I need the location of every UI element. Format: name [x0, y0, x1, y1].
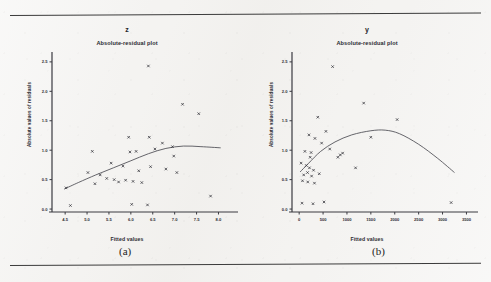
svg-text:500: 500 — [320, 217, 328, 222]
svg-text:6.5: 6.5 — [150, 217, 156, 222]
svg-text:1000: 1000 — [342, 217, 352, 222]
svg-text:1500: 1500 — [366, 217, 376, 222]
svg-text:2.0: 2.0 — [42, 89, 48, 94]
svg-text:0.0: 0.0 — [42, 207, 48, 212]
svg-text:8.0: 8.0 — [216, 217, 222, 222]
svg-text:1.5: 1.5 — [42, 118, 48, 123]
svg-text:3000: 3000 — [438, 217, 448, 222]
panel-b-y-axis-label: Absolute values of residuals — [269, 70, 274, 160]
svg-text:1.0: 1.0 — [42, 148, 48, 153]
figure-page: z Absolute-residual plot 0.00.51.01.52.0… — [0, 0, 491, 282]
svg-text:2.5: 2.5 — [42, 59, 48, 64]
bottom-rule — [10, 263, 481, 266]
svg-text:7.5: 7.5 — [194, 217, 200, 222]
panel-b: y Absolute-residual plot 0.00.51.01.52.0… — [248, 20, 486, 244]
panel-b-plot: 0.00.51.01.52.02.50500100015002000250030… — [248, 20, 486, 244]
svg-text:2000: 2000 — [390, 217, 400, 222]
svg-text:7.0: 7.0 — [172, 217, 178, 222]
panel-a-x-axis-label: Fitted values — [8, 236, 246, 242]
svg-text:5.5: 5.5 — [106, 217, 112, 222]
caption-a: (a) — [119, 245, 131, 257]
svg-text:0.0: 0.0 — [282, 207, 288, 212]
panel-b-x-axis-label: Fitted values — [248, 236, 486, 242]
panel-a-plot: 0.00.51.01.52.02.54.55.05.56.06.57.07.58… — [8, 20, 246, 244]
svg-text:2.5: 2.5 — [282, 59, 288, 64]
svg-text:0.5: 0.5 — [42, 177, 48, 182]
top-rule — [10, 13, 481, 16]
svg-text:4.5: 4.5 — [62, 217, 68, 222]
svg-text:5.0: 5.0 — [84, 217, 90, 222]
svg-text:6.0: 6.0 — [128, 217, 134, 222]
panel-a: z Absolute-residual plot 0.00.51.01.52.0… — [8, 20, 246, 244]
svg-text:2.0: 2.0 — [282, 89, 288, 94]
svg-text:0: 0 — [298, 217, 301, 222]
svg-text:2500: 2500 — [414, 217, 424, 222]
caption-b: (b) — [372, 245, 385, 257]
svg-text:3500: 3500 — [462, 217, 472, 222]
svg-text:0.5: 0.5 — [282, 177, 288, 182]
svg-text:1.5: 1.5 — [282, 118, 288, 123]
panel-a-y-axis-label: Absolute values of residuals — [27, 70, 32, 160]
svg-text:1.0: 1.0 — [282, 148, 288, 153]
